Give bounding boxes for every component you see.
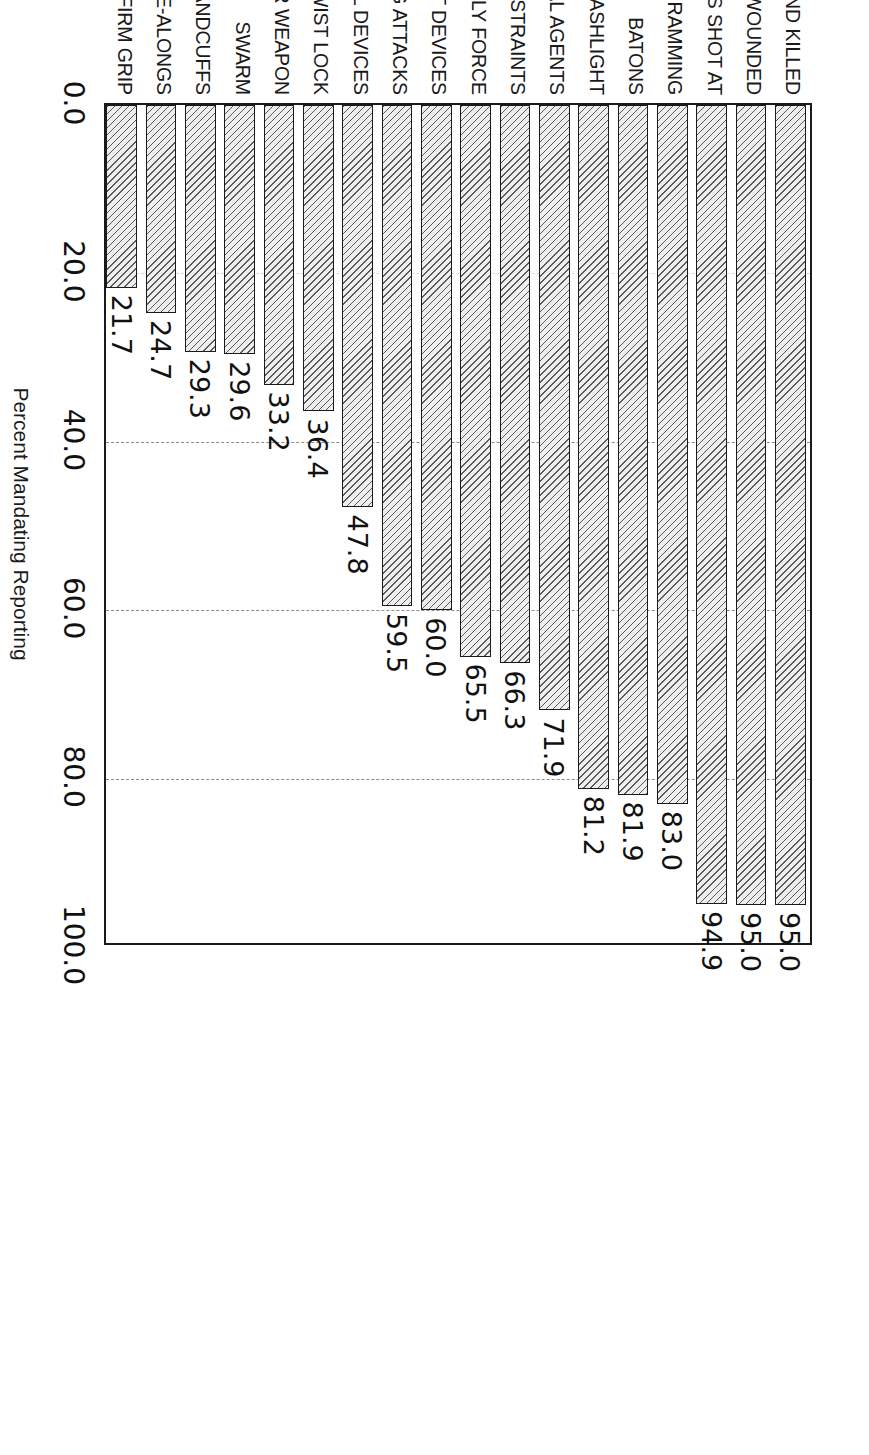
bar-value-label: 94.9 — [698, 911, 725, 971]
category-label: ELECTRICAL DEVICES — [350, 0, 370, 95]
bar-value-label: 29.6 — [226, 361, 253, 421]
bar-value-label: 66.3 — [501, 670, 528, 730]
category-label: VEHICLE RAMMING — [665, 0, 685, 95]
value-tick-label: 60.0 — [59, 577, 87, 639]
bar-value-label: 59.5 — [383, 613, 410, 673]
bar-value-label: 81.2 — [580, 796, 607, 856]
value-tick-label: 40.0 — [59, 409, 87, 471]
category-label: SWARM — [232, 21, 252, 95]
bar — [224, 105, 255, 354]
value-tick-label: 80.0 — [59, 745, 87, 807]
category-label: COME-ALONGS — [154, 0, 174, 95]
bar-value-label: 24.7 — [147, 320, 174, 380]
bar — [618, 105, 649, 795]
bar — [303, 105, 334, 411]
bar — [578, 105, 609, 789]
bar-value-label: 21.7 — [108, 295, 135, 355]
bar-value-label: 95.0 — [776, 912, 803, 972]
bar — [460, 105, 491, 657]
plot-area: 95.095.094.983.081.981.271.966.365.560.0… — [104, 103, 812, 945]
bar-value-label: 36.4 — [304, 418, 331, 478]
bar-value-label: 83.0 — [658, 811, 685, 871]
category-label: UNHOLSTER WEAPON — [272, 0, 292, 95]
bar — [146, 105, 177, 313]
bar-value-label: 47.8 — [344, 514, 371, 574]
category-label: TWIST LOCK — [311, 0, 331, 95]
category-label: DOG ATTACKS — [390, 0, 410, 95]
bar — [185, 105, 216, 352]
category-label: CIVILIANS SHOT AND KILLED — [783, 0, 803, 95]
value-tick-label: 20.0 — [59, 240, 87, 302]
bar-value-label: 71.9 — [540, 717, 567, 777]
chart-page: CIVILIANS SHOT AND KILLEDCIVILIANS SHOT … — [0, 0, 869, 1455]
category-label: CIVILIANS SHOT AT — [704, 0, 724, 95]
category-label: BODILY FORCE — [468, 0, 488, 95]
bar — [342, 105, 373, 507]
value-tick-label: 100.0 — [59, 905, 87, 985]
category-label: CHEMICAL AGENTS — [547, 0, 567, 95]
bar — [775, 105, 806, 905]
bar — [696, 105, 727, 904]
bar — [657, 105, 688, 804]
bar-value-label: 60.0 — [422, 617, 449, 677]
category-label: FIRM GRIP — [114, 0, 134, 95]
bar-value-label: 95.0 — [737, 912, 764, 972]
value-tick-label: 0.0 — [59, 81, 87, 126]
bar — [736, 105, 767, 905]
bar — [421, 105, 452, 610]
bar — [382, 105, 413, 606]
category-label: CIVILIANS SHOT AND WOUNDED — [744, 0, 764, 95]
bar-value-label: 65.5 — [462, 664, 489, 724]
category-label: FLASHLIGHT — [586, 0, 606, 95]
bar — [500, 105, 531, 663]
category-label: HANDCUFFS — [193, 0, 213, 95]
chart-stage: CIVILIANS SHOT AND KILLEDCIVILIANS SHOT … — [0, 0, 869, 1455]
category-label: NECK RESTRAINTS — [508, 0, 528, 95]
category-label: OTHER IMPACT DEVICES — [429, 0, 449, 95]
category-label: BATONS — [626, 17, 646, 95]
bar — [539, 105, 570, 710]
value-axis-title: Percent Mandating Reporting — [9, 103, 33, 945]
bar-value-label: 33.2 — [265, 392, 292, 452]
bar — [106, 105, 137, 288]
bar-value-label: 81.9 — [619, 802, 646, 862]
value-axis-ticks: 0.020.040.060.080.0100.0 — [47, 103, 87, 945]
bar — [264, 105, 295, 385]
bar-value-label: 29.3 — [186, 359, 213, 419]
